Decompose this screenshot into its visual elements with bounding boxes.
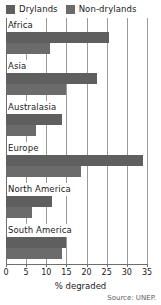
bar-group: Europe: [0, 141, 161, 182]
tick-mark: [127, 264, 128, 267]
bar-non-drylands: [6, 248, 62, 259]
tick-mark: [147, 264, 148, 267]
bar-drylands: [6, 114, 62, 125]
legend-swatch-icon: [66, 5, 75, 14]
bar-group: Asia: [0, 59, 161, 100]
tick-label: 20: [81, 268, 91, 277]
category-label: South America: [8, 224, 75, 237]
bar-group: North America: [0, 182, 161, 223]
bar-group: Australasia: [0, 100, 161, 141]
plot-area: AfricaAsiaAustralasiaEuropeNorth America…: [0, 18, 161, 264]
bar-drylands: [6, 32, 109, 43]
category-label: Asia: [8, 60, 29, 73]
legend-label: Non-drylands: [79, 5, 137, 14]
x-axis: % degraded Source: UNEP. 05101520253035: [0, 264, 161, 305]
tick-mark: [46, 264, 47, 267]
tick-label: 15: [61, 268, 71, 277]
bar-non-drylands: [6, 125, 36, 136]
bar-group: Africa: [0, 18, 161, 59]
bar-non-drylands: [6, 207, 32, 218]
category-label: Africa: [8, 19, 36, 32]
legend-swatch-icon: [6, 5, 15, 14]
bar-drylands: [6, 73, 97, 84]
bar-drylands: [6, 155, 143, 166]
bar-drylands: [6, 196, 52, 207]
degraded-land-bar-chart: DrylandsNon-drylands AfricaAsiaAustralas…: [0, 0, 161, 305]
bar-drylands: [6, 237, 66, 248]
tick-label: 5: [24, 268, 29, 277]
tick-label: 35: [142, 268, 152, 277]
tick-mark: [6, 264, 7, 267]
bar-non-drylands: [6, 84, 66, 95]
tick-label: 0: [3, 268, 8, 277]
source-note: Source: UNEP.: [107, 294, 156, 302]
x-axis-title: % degraded: [0, 281, 161, 291]
tick-mark: [87, 264, 88, 267]
category-label: Australasia: [8, 101, 59, 114]
chart-legend: DrylandsNon-drylands: [0, 0, 161, 18]
tick-mark: [66, 264, 67, 267]
bar-groups: AfricaAsiaAustralasiaEuropeNorth America…: [0, 18, 161, 264]
bar-non-drylands: [6, 43, 50, 54]
tick-mark: [107, 264, 108, 267]
axis-line: [6, 264, 147, 265]
tick-label: 10: [41, 268, 51, 277]
tick-mark: [26, 264, 27, 267]
legend-label: Drylands: [19, 5, 58, 14]
tick-label: 25: [102, 268, 112, 277]
bar-non-drylands: [6, 166, 81, 177]
bar-group: South America: [0, 223, 161, 264]
legend-entry: Non-drylands: [66, 5, 137, 14]
legend-entry: Drylands: [6, 5, 58, 14]
tick-label: 30: [122, 268, 132, 277]
category-label: Europe: [8, 142, 42, 155]
category-label: North America: [8, 183, 74, 196]
